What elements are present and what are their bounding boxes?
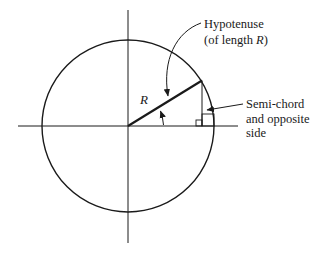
- hypotenuse-length-var: R: [255, 33, 264, 47]
- semichord-label-line1: Semi-chord: [246, 97, 305, 111]
- right-angle-marker-right: [202, 114, 214, 126]
- circle-diagram: R Hypotenuse (of length R) Semi-chord an…: [0, 0, 315, 255]
- hypotenuse-length-suffix: ): [264, 33, 268, 47]
- hypotenuse-label-line1: Hypotenuse: [204, 17, 264, 31]
- semichord-label-line3: side: [246, 126, 267, 140]
- radius-label: R: [139, 92, 148, 107]
- hypotenuse-length-label: (of length R): [204, 33, 268, 47]
- angle-arc-arrow: [161, 111, 164, 125]
- right-angle-marker-left: [196, 120, 202, 126]
- hypotenuse-label: Hypotenuse: [204, 17, 264, 31]
- hypotenuse-length-prefix: (of length: [204, 33, 256, 47]
- semichord-label-line2: and opposite: [246, 112, 310, 126]
